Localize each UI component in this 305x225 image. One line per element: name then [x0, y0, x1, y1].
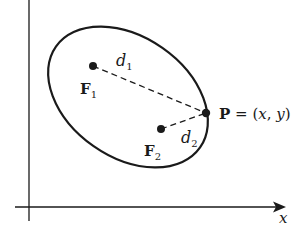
- point-p-label: P = (x, y): [219, 105, 291, 123]
- x-axis-label: x: [279, 209, 288, 225]
- point-p: [202, 109, 210, 117]
- focus-point-f2: [157, 125, 165, 133]
- focus-point-f1: [89, 62, 97, 70]
- focus-label-f2: F2: [144, 142, 161, 162]
- ellipse-foci-diagram: x F1 F2 d1 d2 P = (x, y): [0, 0, 305, 225]
- ellipse: [22, 0, 235, 197]
- distance-label-d1: d1: [116, 51, 133, 72]
- distance-label-d2: d2: [181, 128, 198, 149]
- distance-line-d2: [161, 113, 206, 129]
- focus-label-f1: F1: [80, 80, 97, 100]
